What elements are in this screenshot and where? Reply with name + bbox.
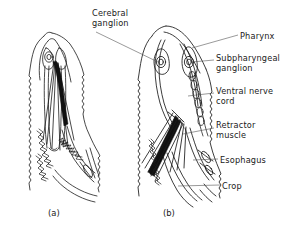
crop-b2 <box>172 152 202 200</box>
label-esophagus: Esophagus <box>220 155 266 165</box>
label-ventral-nerve-cord: Ventral nerve cord <box>216 86 290 106</box>
prostomium-lobe-a <box>43 48 54 69</box>
organ-b <box>200 150 212 164</box>
ventral-nerve-cord-b <box>189 72 208 136</box>
ventral-nerve-cord-a2 <box>36 154 48 181</box>
head-inner-a3 <box>48 39 55 41</box>
internal-line-a1 <box>86 150 95 178</box>
body-wall-right-a <box>52 33 100 192</box>
panel-b-drawing <box>138 26 221 207</box>
label-retractor-muscle: Retractor muscle <box>216 120 290 140</box>
internal-line-b <box>204 184 216 196</box>
figure-root: Cerebral ganglion Pharynx Subpharyngeal … <box>0 0 291 228</box>
label-subpharyngeal-ganglion: Subpharyngeal ganglion <box>216 53 290 73</box>
leader-esophagus <box>193 159 218 160</box>
ventral-nerve-cord-a <box>37 129 53 168</box>
leader-pharynx <box>192 35 238 48</box>
gut-ganglia-a <box>59 138 83 160</box>
label-pharynx: Pharynx <box>240 31 275 41</box>
crop-a2 <box>53 176 95 202</box>
label-crop: Crop <box>222 181 242 191</box>
panel-a-drawing <box>29 32 100 202</box>
crop-b <box>167 153 197 201</box>
cerebral-ganglion-core-a <box>47 54 51 59</box>
leader-cerebral-ganglion <box>96 32 160 63</box>
head-tip-a <box>44 32 52 36</box>
retractor-fiber-b7 <box>177 124 184 170</box>
panel-label-b: (b) <box>163 208 175 218</box>
crop-a <box>55 170 97 196</box>
head-inner-a <box>39 41 48 80</box>
panel-label-a: (a) <box>48 208 60 218</box>
leader-retractor-muscle <box>183 128 214 134</box>
leader-crop <box>178 185 220 186</box>
cerebral-ganglion-a <box>45 52 54 62</box>
retractor-fiber-b8 <box>184 127 186 168</box>
esophagus-b <box>185 128 209 180</box>
internal-line-a2 <box>90 148 99 176</box>
pharynx-wall-left-a <box>44 66 47 148</box>
label-cerebral-ganglion: Cerebral ganglion <box>92 8 156 28</box>
